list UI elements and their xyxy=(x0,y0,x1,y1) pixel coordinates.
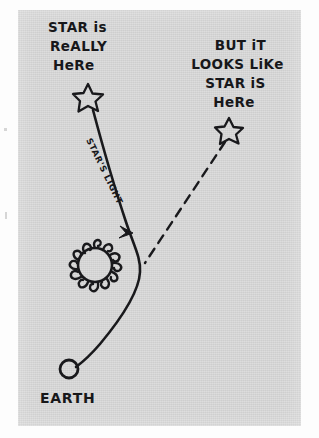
label-star-apparent-line-1: BUT iT xyxy=(215,37,267,53)
label-star-apparent-line-3: STAR iS xyxy=(205,75,266,91)
label-star-apparent-line-2: LOOKS LiKe xyxy=(191,56,284,72)
label-star-apparent: BUT iT LOOKS LiKe STAR iS HeRe xyxy=(191,37,289,110)
label-light-path: STAR'S LIGHT xyxy=(84,136,125,206)
real-light-path xyxy=(76,110,140,367)
label-earth: EARTH xyxy=(40,390,95,406)
star-apparent-icon xyxy=(215,118,243,144)
star-real-icon xyxy=(73,84,103,112)
apparent-light-path xyxy=(145,142,225,263)
label-star-real-line-2: ReALLY xyxy=(50,38,107,54)
label-star-real: STAR is ReALLY HeRe xyxy=(48,19,112,73)
figure-page: STAR is ReALLY HeRe BUT iT LOOKS LiKe ST… xyxy=(0,0,319,438)
sun-icon xyxy=(70,240,121,291)
label-star-real-line-3: HeRe xyxy=(53,57,95,73)
label-star-apparent-line-4: HeRe xyxy=(213,94,255,110)
label-star-real-line-1: STAR is xyxy=(48,19,107,35)
lensing-diagram: STAR is ReALLY HeRe BUT iT LOOKS LiKe ST… xyxy=(0,0,319,438)
earth-icon xyxy=(60,360,78,378)
